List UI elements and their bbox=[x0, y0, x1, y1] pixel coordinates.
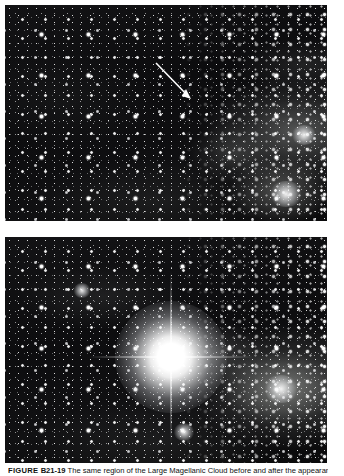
progenitor-arrow bbox=[5, 5, 327, 221]
bright-star-knot bbox=[263, 375, 299, 403]
after-plate-image bbox=[5, 237, 327, 463]
figure-caption-word: FIGURE bbox=[8, 466, 39, 475]
after-supernova-plate bbox=[5, 237, 327, 463]
star-cluster-region bbox=[177, 237, 327, 463]
bright-star-knot bbox=[173, 423, 195, 441]
bright-star-knot bbox=[73, 283, 91, 298]
before-supernova-plate bbox=[5, 5, 327, 221]
before-plate-image bbox=[5, 5, 327, 221]
figure-caption-number: B21-19 bbox=[41, 466, 66, 475]
arrow-shaft bbox=[156, 63, 189, 97]
figure-page: Anglo-Australian Telescope Board FIGURE … bbox=[0, 0, 344, 476]
figure-caption-text: The same region of the Large Magellanic … bbox=[68, 466, 328, 475]
figure-caption: FIGURE B21-19 The same region of the Lar… bbox=[8, 466, 328, 475]
